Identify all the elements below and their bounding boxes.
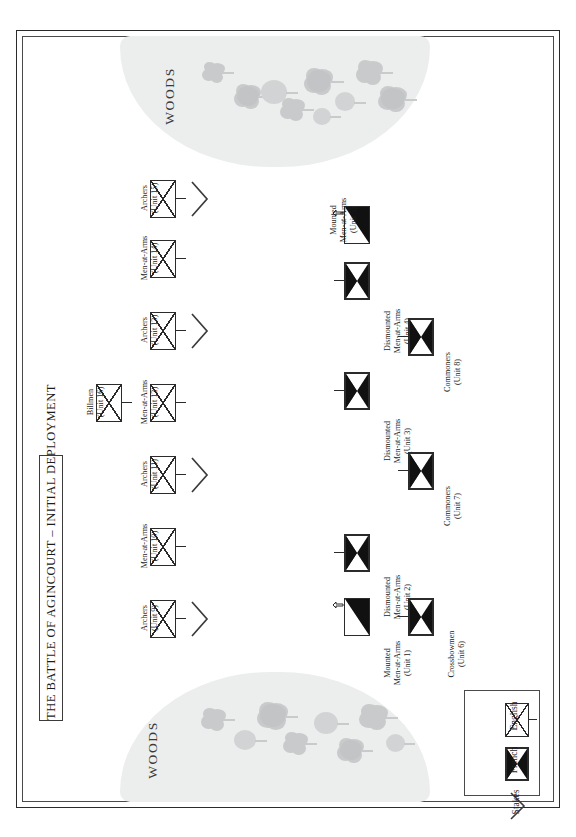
legend-label-french: French [509, 737, 519, 783]
unit-staff-icon [176, 402, 186, 403]
unit-caption: Archers (Unit 13) [140, 300, 160, 360]
unit-staff-icon [122, 402, 132, 403]
stakes-chevron-symbol [190, 600, 210, 638]
unit-staff-icon [176, 546, 186, 547]
unit-caption: Men-at-Arms (Unit 14) [140, 224, 160, 292]
french-unit-symbol [344, 372, 370, 410]
battle-map-diagram: WOODS [0, 0, 576, 837]
page-title-text: THE BATTLE OF AGINCOURT – INITIAL DEPLOY… [40, 456, 62, 720]
legend: English French Stakes [464, 690, 540, 796]
woods-label-bottom: WOODS [145, 715, 161, 785]
unit-staff-icon [334, 390, 344, 391]
woods-label-top: WOODS [162, 61, 178, 131]
unit-caption: Men-at-Arms (Unit 12) [140, 368, 160, 436]
unit-caption: Men-at-Arms (Unit 10) [140, 512, 160, 580]
french-unit-symbol [344, 262, 370, 300]
unit-caption: Commoners (Unit 7) [443, 475, 463, 537]
unit-staff-icon [176, 618, 186, 619]
unit-staff-icon [334, 552, 344, 553]
unit-staff-icon [176, 330, 186, 331]
cavalry-pennant-icon [333, 602, 344, 614]
unit-staff-icon [398, 616, 408, 617]
unit-staff-icon [176, 474, 186, 475]
stakes-chevron-symbol [190, 180, 210, 218]
french-mounted-unit-symbol [344, 598, 370, 636]
unit-staff-icon [176, 198, 186, 199]
unit-staff-icon [529, 719, 537, 720]
french-unit-symbol [408, 318, 434, 356]
stakes-chevron-symbol [190, 312, 210, 350]
legend-label-stakes: Stakes [511, 779, 521, 825]
unit-caption: Commoners (Unit 8) [443, 341, 463, 403]
unit-caption: Mounted Men-at-Arms (Unit 5) [329, 178, 359, 262]
french-unit-symbol [408, 598, 434, 636]
unit-caption: Billmen (Unit 16) [86, 372, 106, 432]
stakes-chevron-symbol [190, 456, 210, 494]
unit-caption: Crossbowmen (Unit 6) [447, 621, 467, 687]
unit-staff-icon [334, 280, 344, 281]
unit-caption: Archers (Unit 15) [140, 168, 160, 228]
unit-staff-icon [398, 470, 408, 471]
legend-label-english: English [509, 693, 519, 739]
unit-caption: Archers (Unit 11) [140, 444, 160, 504]
unit-staff-icon [176, 258, 186, 259]
french-unit-symbol [344, 534, 370, 572]
unit-caption: Archers (Unit 9) [140, 588, 160, 648]
unit-staff-icon [398, 336, 408, 337]
page-title: THE BATTLE OF AGINCOURT – INITIAL DEPLOY… [39, 455, 63, 721]
french-unit-symbol [408, 452, 434, 490]
